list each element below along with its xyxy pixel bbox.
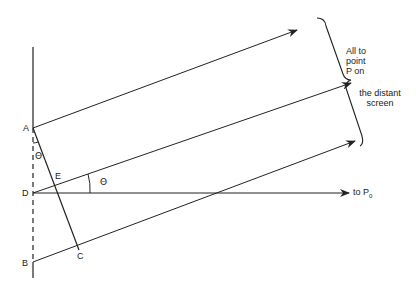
brace	[317, 18, 363, 146]
brace-note-bottom: the distant screen	[349, 88, 411, 108]
point-label-b: B	[22, 259, 28, 268]
angle-label-theta-d: Θ	[100, 178, 107, 187]
brace-note-line-4: the distant	[349, 88, 411, 98]
ray-from-b	[33, 141, 355, 262]
brace-note-line-2: point	[346, 56, 374, 66]
diagram-canvas	[0, 0, 416, 292]
point-label-e: E	[55, 172, 61, 181]
point-label-c: C	[77, 252, 84, 261]
brace-note-line-5: screen	[349, 98, 411, 108]
ray-from-a	[33, 30, 297, 128]
perpendicular-ac	[33, 128, 79, 250]
angle-arc-a	[33, 142, 38, 143]
angle-label-theta-a: Θ	[35, 152, 42, 161]
point-label-a: A	[23, 124, 29, 133]
brace-note-line-1: All to	[346, 46, 374, 56]
to-p0-label: to P0	[353, 188, 372, 199]
point-label-d: D	[22, 189, 29, 198]
brace-note-line-3: P on	[346, 66, 374, 76]
angle-arc-d	[88, 174, 90, 193]
ray-from-d	[33, 83, 351, 193]
to-p-text: to P	[353, 187, 369, 197]
p-subscript: 0	[369, 193, 372, 199]
brace-note-top: All to point P on	[346, 46, 374, 76]
